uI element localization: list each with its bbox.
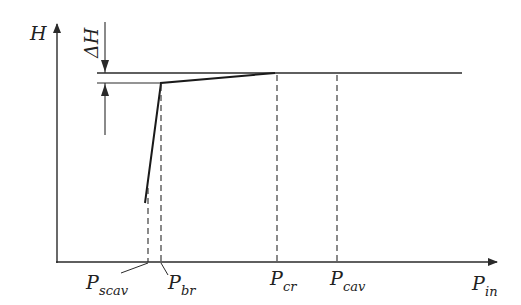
- label-p-scav: P scav: [85, 271, 129, 298]
- delta-h-dimension: ΔH: [80, 22, 109, 135]
- delta-h-label: ΔH: [80, 27, 102, 59]
- svg-text:P: P: [85, 271, 100, 293]
- y-axis-label: H: [29, 22, 47, 44]
- svg-text:P: P: [471, 272, 486, 294]
- svg-text:cav: cav: [343, 279, 366, 294]
- leader-scav: [121, 263, 148, 273]
- svg-text:P: P: [167, 271, 182, 293]
- arrow-up-icon: [101, 84, 109, 96]
- head-pressure-diagram: H P in ΔH P scav P br P cr P cav: [0, 0, 521, 305]
- x-axis-label: P in: [471, 272, 498, 299]
- leader-br: [161, 263, 168, 275]
- label-p-cr: P cr: [269, 267, 297, 294]
- label-p-cav: P cav: [329, 267, 366, 294]
- svg-text:cr: cr: [283, 279, 297, 294]
- head-curve: [145, 73, 275, 203]
- svg-text:P: P: [329, 267, 344, 289]
- svg-text:P: P: [269, 267, 284, 289]
- svg-text:br: br: [181, 283, 196, 298]
- svg-text:scav: scav: [99, 283, 129, 298]
- svg-text:in: in: [485, 284, 498, 299]
- label-p-br: P br: [167, 271, 196, 298]
- arrow-down-icon: [101, 60, 109, 72]
